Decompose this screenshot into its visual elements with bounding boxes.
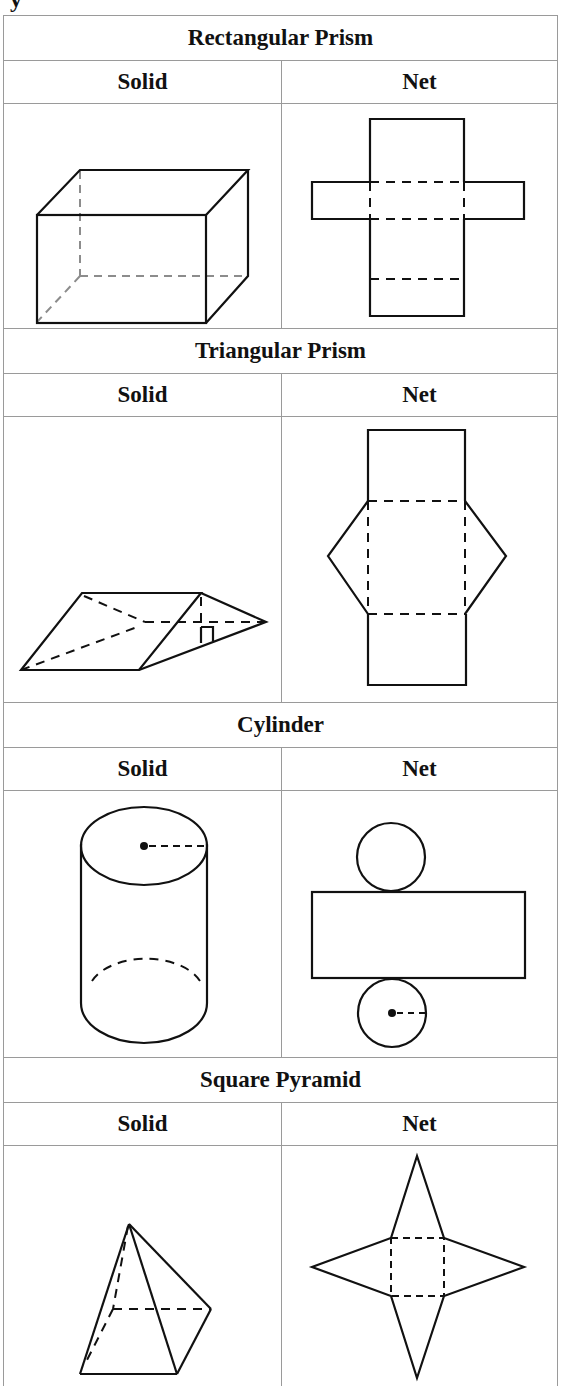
section-cylinder: Cylinder Solid Net — [4, 703, 557, 1058]
cylinder-solid-figure — [4, 791, 281, 1057]
figure-row — [4, 417, 557, 702]
section-rectangular-prism: Rectangular Prism Solid Net — [4, 16, 557, 329]
triangular-prism-net-figure — [281, 417, 557, 702]
header-solid: Solid — [4, 748, 281, 790]
header-net: Net — [281, 1103, 557, 1145]
triangular-prism-solid-figure — [4, 417, 281, 702]
section-triangular-prism: Triangular Prism Solid Net — [4, 329, 557, 703]
header-net: Net — [281, 61, 557, 103]
rectangular-prism-net-figure — [281, 104, 557, 328]
section-square-pyramid: Square Pyramid Solid Net — [4, 1058, 557, 1386]
rectangular-prism-solid-figure — [4, 104, 281, 328]
section-title: Rectangular Prism — [4, 16, 557, 61]
column-headers: Solid Net — [4, 61, 557, 104]
column-headers: Solid Net — [4, 374, 557, 417]
column-headers: Solid Net — [4, 748, 557, 791]
cylinder-net-figure — [281, 791, 557, 1057]
cutoff-heading-text: y — [10, 0, 22, 13]
square-pyramid-solid-figure — [4, 1146, 281, 1386]
section-title: Triangular Prism — [4, 329, 557, 374]
header-solid: Solid — [4, 1103, 281, 1145]
square-pyramid-net-figure — [281, 1146, 557, 1386]
header-solid: Solid — [4, 61, 281, 103]
header-net: Net — [281, 374, 557, 416]
solids-and-nets-table: Rectangular Prism Solid Net — [3, 15, 558, 1386]
header-net: Net — [281, 748, 557, 790]
figure-row — [4, 104, 557, 328]
figure-row — [4, 1146, 557, 1386]
section-title: Cylinder — [4, 703, 557, 748]
header-solid: Solid — [4, 374, 281, 416]
section-title: Square Pyramid — [4, 1058, 557, 1103]
column-headers: Solid Net — [4, 1103, 557, 1146]
figure-row — [4, 791, 557, 1057]
